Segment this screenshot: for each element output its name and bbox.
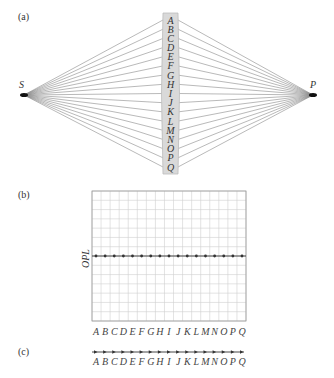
opl-point xyxy=(104,255,107,258)
x-tick-label: G xyxy=(147,326,154,337)
arrow-marker xyxy=(103,350,107,354)
x-tick-label: D xyxy=(119,326,128,337)
x-tick-label: N xyxy=(210,326,219,337)
opl-data-points xyxy=(92,255,246,258)
lens-letter: Q xyxy=(167,162,175,173)
panel-b-label: (b) xyxy=(18,189,30,201)
x-tick-label: K xyxy=(183,326,192,337)
arrow-marker xyxy=(240,350,244,354)
outgoing-ray xyxy=(178,95,313,112)
incoming-ray xyxy=(24,57,163,95)
outgoing-ray xyxy=(178,95,313,158)
x-tick-label: H xyxy=(155,326,164,337)
arrow-marker xyxy=(94,350,98,354)
arrow-marker xyxy=(112,350,116,354)
arrow-marker xyxy=(149,350,153,354)
opl-point xyxy=(168,255,171,258)
outgoing-ray xyxy=(178,95,313,130)
arrow-marker xyxy=(194,350,198,354)
opl-point xyxy=(95,255,98,258)
x-tick-label: L xyxy=(193,356,200,367)
incoming-ray xyxy=(24,48,163,95)
opl-point xyxy=(241,255,244,258)
image-point xyxy=(309,93,317,97)
outgoing-ray xyxy=(178,38,313,95)
arrow-marker xyxy=(185,350,189,354)
x-tick-label: Q xyxy=(238,356,246,367)
arrow-marker xyxy=(140,350,144,354)
x-tick-label: F xyxy=(138,326,146,337)
outgoing-ray xyxy=(178,20,313,95)
opl-point xyxy=(158,255,161,258)
arrow-marker xyxy=(131,350,135,354)
opl-point xyxy=(213,255,216,258)
incoming-ray xyxy=(24,95,163,167)
incoming-ray xyxy=(24,95,163,130)
opl-point xyxy=(195,255,198,258)
outgoing-ray xyxy=(178,94,313,96)
incoming-ray xyxy=(24,20,163,95)
x-tick-label: P xyxy=(229,326,236,337)
opl-point xyxy=(131,255,134,258)
outgoing-ray xyxy=(178,57,313,95)
x-tick-label: C xyxy=(111,356,118,367)
panel-a-label: (a) xyxy=(18,11,29,23)
x-tick-label: I xyxy=(166,326,171,337)
x-tick-label: E xyxy=(128,356,135,367)
incoming-ray xyxy=(24,95,163,112)
x-tick-label: B xyxy=(102,356,108,367)
arrow-marker xyxy=(222,350,226,354)
opl-point xyxy=(231,255,234,258)
source-point xyxy=(20,93,28,97)
optics-figure: (a) ABCDEFGHIJKLMNOPQ S P (b) OPL ABCDEF… xyxy=(0,0,334,378)
x-tick-label: A xyxy=(92,356,100,367)
arrow-marker xyxy=(231,350,235,354)
source-label: S xyxy=(19,79,24,90)
x-tick-label: I xyxy=(166,356,171,367)
x-tick-label: L xyxy=(193,326,200,337)
outgoing-ray xyxy=(178,95,313,167)
arrow-marker xyxy=(204,350,208,354)
incoming-ray xyxy=(24,95,163,158)
arrow-marker xyxy=(176,350,180,354)
outgoing-ray xyxy=(178,66,313,95)
incoming-ray xyxy=(24,94,163,96)
outgoing-ray xyxy=(178,84,313,95)
x-tick-label: M xyxy=(200,356,210,367)
x-tick-label: C xyxy=(111,326,118,337)
outgoing-ray xyxy=(178,48,313,95)
opl-point xyxy=(140,255,143,258)
arrow-marker xyxy=(158,350,162,354)
panel-c-x-labels: ABCDEFGHIJKLMNOPQ xyxy=(92,356,246,367)
panel-b-x-labels: ABCDEFGHIJKLMNOPQ xyxy=(92,326,246,337)
incoming-ray xyxy=(24,38,163,95)
x-tick-label: Q xyxy=(238,326,246,337)
incoming-ray xyxy=(24,95,163,149)
x-tick-label: E xyxy=(128,326,135,337)
x-tick-label: O xyxy=(220,326,227,337)
arrow-marker xyxy=(167,350,171,354)
opl-point xyxy=(204,255,207,258)
panel-c-label: (c) xyxy=(18,346,29,358)
x-tick-label: J xyxy=(176,326,181,337)
x-tick-label: J xyxy=(176,356,181,367)
incoming-ray xyxy=(24,66,163,95)
x-tick-label: H xyxy=(155,356,164,367)
x-tick-label: G xyxy=(147,356,154,367)
x-tick-label: F xyxy=(138,356,146,367)
opl-point xyxy=(177,255,180,258)
x-tick-label: K xyxy=(183,356,192,367)
opl-point xyxy=(122,255,125,258)
opl-point xyxy=(222,255,225,258)
panel-c-arrow-line xyxy=(92,350,244,354)
x-tick-label: B xyxy=(102,326,108,337)
opl-point xyxy=(186,255,189,258)
outgoing-ray xyxy=(178,95,313,149)
image-label: P xyxy=(309,79,316,90)
arrow-marker xyxy=(213,350,217,354)
x-tick-label: P xyxy=(229,356,236,367)
x-tick-label: O xyxy=(220,356,227,367)
x-tick-label: A xyxy=(92,326,100,337)
opl-point xyxy=(113,255,116,258)
x-tick-label: D xyxy=(119,356,128,367)
